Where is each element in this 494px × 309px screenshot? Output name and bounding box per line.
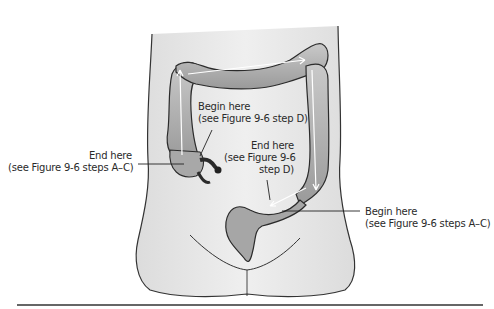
label-line: (see Figure 9-6 steps A–C) [365, 218, 490, 230]
label-line: (see Figure 9-6 [224, 152, 294, 164]
label-line: End here [8, 150, 132, 162]
label-begin-step-d: Begin here (see Figure 9-6 step D) [198, 101, 308, 125]
label-line: (see Figure 9-6 steps A–C) [8, 162, 132, 174]
label-end-step-d: End here (see Figure 9-6 step D) [224, 140, 294, 176]
label-begin-steps-a-c: Begin here (see Figure 9-6 steps A–C) [365, 206, 490, 230]
label-line: step D) [224, 164, 294, 176]
label-line: Begin here [198, 101, 308, 113]
label-line: (see Figure 9-6 step D) [198, 113, 308, 125]
label-end-steps-a-c: End here (see Figure 9-6 steps A–C) [8, 150, 132, 174]
label-line: End here [224, 140, 294, 152]
label-line: Begin here [365, 206, 490, 218]
